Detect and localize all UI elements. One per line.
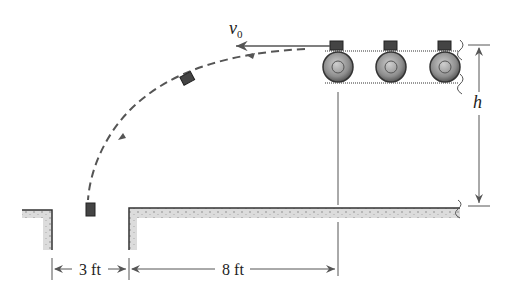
diagram-canvas: v0 h 3 ft 8 ft: [0, 0, 507, 291]
roller-2: [376, 52, 406, 82]
break-mark-top-icon: [457, 40, 463, 60]
conveyor-belt: [323, 40, 463, 94]
trajectory-path: [88, 49, 305, 200]
box-in-flight: [180, 72, 195, 86]
trajectory-arrow-2-icon: [118, 133, 126, 140]
box-on-belt-3: [438, 41, 451, 50]
height-label: h: [473, 92, 482, 112]
distance-label: 8 ft: [222, 261, 244, 278]
roller-3: [430, 52, 460, 82]
right-ground-platform: [129, 200, 461, 250]
gap-label: 3 ft: [79, 261, 101, 278]
height-dimension: [468, 45, 490, 206]
velocity-label: v0: [229, 18, 243, 40]
box-landing: [86, 203, 95, 216]
break-mark-bottom-icon: [457, 74, 463, 94]
left-ground-ledge: [22, 210, 52, 250]
box-on-belt-2: [384, 41, 397, 50]
roller-1: [323, 52, 353, 82]
box-on-belt-1: [330, 41, 343, 50]
